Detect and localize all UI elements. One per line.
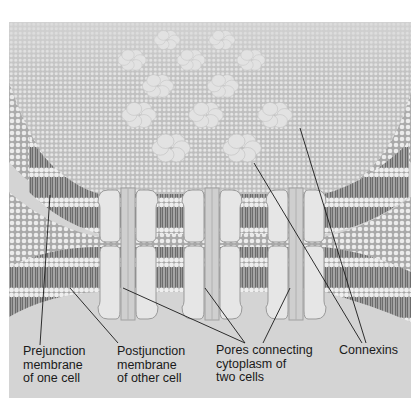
label-connexins: Connexins	[339, 344, 398, 358]
cropped-caption-fragment	[140, 0, 280, 8]
label-pores: Pores connecting cytoplasm of two cells	[216, 344, 313, 385]
pore-channels	[98, 188, 326, 320]
label-postjunction-membrane: Postjunction membrane of other cell	[117, 345, 185, 386]
gap-junction-illustration	[9, 22, 411, 398]
diagram-frame: Prejunction membrane of one cell Postjun…	[9, 22, 411, 398]
label-prejunction-membrane: Prejunction membrane of one cell	[23, 345, 86, 386]
